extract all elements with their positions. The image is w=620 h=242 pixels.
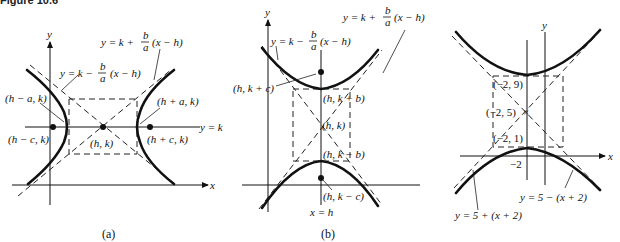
hyperbola-branch-top: [456, 30, 600, 75]
leader-asymptote-neg: [276, 46, 278, 60]
y-axis-label: y: [264, 6, 270, 18]
label-tick-minus-2: −2: [510, 158, 522, 170]
label-vertex-top: (h, k + b): [323, 92, 365, 105]
label-vertex-right: (h + a, k): [157, 95, 199, 108]
label-vertex-left: (h − a, k): [5, 92, 47, 105]
hyperbola-branch-top: [262, 48, 378, 89]
svg-text:(x − h): (x − h): [152, 36, 183, 49]
svg-text:b: b: [143, 29, 149, 41]
svg-text:b: b: [311, 28, 317, 40]
leader-asymptote-pos: [383, 30, 405, 73]
x-axis-label: x: [607, 150, 613, 162]
svg-text:y = k +: y = k +: [342, 11, 376, 23]
svg-text:a: a: [311, 40, 317, 52]
svg-text:y = k −: y = k −: [270, 35, 304, 47]
leader-focus-top: [276, 74, 316, 86]
leader-vertex-right: [140, 108, 160, 124]
y-axis-label: y: [46, 28, 52, 40]
label-y-equals-k: y = k: [199, 121, 224, 133]
svg-text:(x − h): (x − h): [394, 11, 425, 24]
label-center: (h, k): [90, 137, 114, 150]
label-center: (−2, 5): [486, 106, 516, 119]
label-asymptote-neg: y = 5 − (x + 2): [519, 191, 587, 204]
svg-text:b: b: [385, 4, 391, 16]
panel-b: y x = h (h, k + c) (h, k + b) (h, k) (h,…: [233, 4, 425, 241]
svg-text:y = k +: y = k +: [100, 36, 134, 48]
svg-text:(x − h): (x − h): [320, 35, 351, 48]
svg-text:(x − h): (x − h): [110, 67, 141, 80]
label-asymptote-pos: y = 5 + (x + 2): [454, 209, 522, 222]
hyperbola-branch-bottom: [456, 148, 600, 193]
leader-asymptote-neg: [565, 170, 573, 188]
svg-text:a: a: [100, 72, 106, 84]
label-focus-top: (h, k + c): [233, 82, 274, 95]
svg-text:a: a: [385, 16, 391, 28]
label-focus-left: (h − c, k): [8, 133, 49, 146]
label-focus-right: (h + c, k): [147, 133, 188, 146]
center-point: [100, 124, 106, 130]
x-axis-label: x: [209, 179, 215, 191]
caption-b: (b): [321, 227, 335, 241]
center-mark: ×: [523, 106, 529, 118]
caption-a: (a): [102, 227, 115, 241]
y-axis-label: y: [541, 19, 547, 31]
focus-top-point: [318, 69, 324, 75]
label-vertex-top: (−2, 9): [493, 78, 523, 91]
label-focus-bottom: (h, k − c): [323, 190, 364, 203]
label-vertex-bottom: (−2, 1): [493, 132, 523, 145]
svg-text:b: b: [100, 60, 106, 72]
svg-text:y = k −: y = k −: [59, 67, 93, 79]
label-center: (h, k): [322, 119, 346, 132]
focus-right-point: [147, 124, 153, 130]
focus-left-point: [50, 124, 56, 130]
equation-asymptote-positive: y = k + b a (x − h): [342, 4, 425, 28]
equation-asymptote-negative: y = k − b a (x − h): [270, 28, 351, 52]
label-x-equals-h: x = h: [309, 206, 334, 218]
equation-asymptote-positive: y = k + b a (x − h): [100, 29, 183, 53]
leader-asymptote-pos: [473, 170, 478, 210]
panel-a: x y y = k (h − a, k) (h + a, k) (h − c, …: [5, 28, 224, 241]
svg-text:a: a: [143, 41, 149, 53]
label-vertex-bottom: (h, k − b): [323, 148, 365, 161]
panel-c: x y −2 × (−2, 9) (−2, 5) (−2, 1) y = 5 −…: [452, 19, 613, 222]
equation-asymptote-negative: y = k − b a (x − h): [59, 60, 141, 84]
leader-asymptote-pos: [154, 49, 160, 80]
